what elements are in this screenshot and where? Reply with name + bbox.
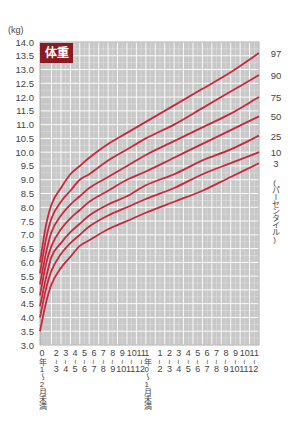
y-tick-label: 3.0 xyxy=(21,340,34,351)
y-tick-label: 4.0 xyxy=(21,312,34,323)
chart-title: 体重 xyxy=(45,46,69,60)
y-tick-label: 6.0 xyxy=(21,257,34,268)
legend-label: (パーセンタイル) xyxy=(270,178,279,247)
percentile-label-90: 90 xyxy=(271,70,282,81)
y-tick-label: 12.5 xyxy=(16,78,35,89)
y-tick-label: 10.5 xyxy=(16,133,35,144)
y-tick-label: 13.0 xyxy=(16,64,35,75)
y-tick-label: 11.0 xyxy=(16,119,34,130)
y-tick-label: 12.0 xyxy=(16,92,35,103)
percentile-label-75: 75 xyxy=(271,92,282,103)
y-axis-unit: (kg) xyxy=(8,25,24,35)
y-tick-label: 14.0 xyxy=(16,37,35,48)
y-tick-label: 13.5 xyxy=(16,50,35,61)
percentile-label-10: 10 xyxy=(271,147,282,158)
y-tick-label: 9.0 xyxy=(21,174,34,185)
y-tick-label: 6.5 xyxy=(21,243,34,254)
x-tick-label: 0年1〜2月未満 xyxy=(37,349,47,409)
y-tick-label: 5.0 xyxy=(21,284,34,295)
percentile-label-97: 97 xyxy=(271,48,282,59)
x-tick-label: 1年0〜1月未満 xyxy=(142,349,152,409)
y-tick-label: 7.5 xyxy=(21,216,34,227)
percentile-label-50: 50 xyxy=(271,111,282,122)
y-tick-label: 7.0 xyxy=(21,229,34,240)
y-tick-label: 11.5 xyxy=(16,105,34,116)
title-badge: 体重 xyxy=(40,43,73,63)
y-tick-label: 3.5 xyxy=(21,326,34,337)
y-tick-label: 8.5 xyxy=(21,188,34,199)
growth-chart: 3.03.54.04.55.05.56.06.57.07.58.08.59.09… xyxy=(0,0,292,430)
y-tick-label: 8.0 xyxy=(21,202,34,213)
y-tick-label: 5.5 xyxy=(21,271,34,282)
percentile-label-3: 3 xyxy=(273,158,278,169)
y-tick-label: 9.5 xyxy=(21,160,34,171)
percentile-label-25: 25 xyxy=(271,131,282,142)
x-tick-label: 11≀12 xyxy=(249,349,259,374)
y-tick-label: 10.0 xyxy=(16,147,35,158)
y-tick-label: 4.5 xyxy=(21,298,34,309)
